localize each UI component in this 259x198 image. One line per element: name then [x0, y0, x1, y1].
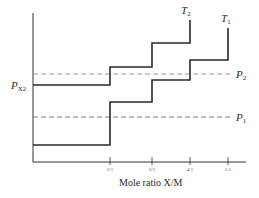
t1-label-sub: 1 — [227, 18, 231, 26]
x-ticks — [110, 157, 228, 165]
tick-label-5: 5/1 — [224, 167, 232, 172]
p2-label: P2 — [236, 69, 246, 82]
t1-step-line — [33, 28, 228, 145]
y-axis-label-text: P — [11, 79, 18, 91]
tick-label-3: 3/1 — [148, 167, 156, 172]
tick-label-4: 4/1 — [186, 167, 194, 172]
t1-label: T1 — [221, 13, 231, 26]
p1-label-sub: 1 — [243, 117, 247, 125]
x-axis-title: Mole ratio X/M — [119, 177, 182, 188]
p1-label-text: P — [236, 111, 243, 123]
chart-canvas — [0, 0, 259, 198]
p1-label: P1 — [236, 112, 246, 125]
p2-label-text: P — [236, 68, 243, 80]
y-axis-label-sub: X2 — [18, 85, 27, 93]
tick-label-2: 2/1 — [106, 167, 114, 172]
t2-label: T2 — [181, 5, 191, 18]
y-axis-label: PX2 — [11, 80, 26, 93]
t2-step-line — [33, 20, 190, 85]
p2-label-sub: 2 — [243, 74, 247, 82]
t2-label-sub: 2 — [187, 10, 191, 18]
